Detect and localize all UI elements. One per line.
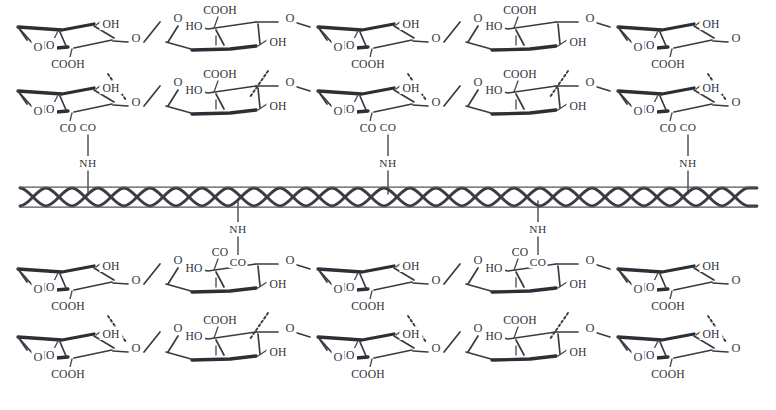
glycosidic-bond-out [413, 41, 428, 42]
glycosidic-bond-out [713, 351, 728, 352]
label-ring-oxygen: O [634, 104, 643, 118]
label-ring-oxygen: O [174, 253, 183, 267]
label-ring-oxygen: O [34, 350, 43, 364]
label-glycosidic-oxygen: O [586, 253, 595, 267]
label-OH: OH [102, 82, 120, 95]
label-ring-oxygen: O [474, 321, 483, 335]
label-OH: OH [569, 100, 587, 113]
label-ring-oxygen: O [334, 350, 343, 364]
label-glycosidic-oxygen: O [732, 273, 741, 287]
label-HO: HO [185, 84, 202, 97]
label-ring-oxygen: O [34, 104, 43, 118]
label-CO: CO [380, 121, 397, 133]
label-glycosidic-oxygen: O [432, 95, 441, 109]
label-glycosidic-oxygen: O [732, 341, 741, 355]
label-COOH: COOH [203, 314, 237, 327]
label-glycosidic-oxygen: O [586, 75, 595, 89]
label-glycosidic-oxygen: O [432, 273, 441, 287]
label-ring-oxygen: O [474, 11, 483, 25]
label-OH: OH [702, 82, 720, 95]
label-NH: NH [529, 223, 546, 235]
label-ring-oxygen: O [334, 40, 343, 54]
label-COOH: COOH [351, 58, 385, 71]
label-CO: CO [530, 256, 547, 268]
glycosidic-bond-out [713, 41, 728, 42]
glycosidic-bond-out [113, 351, 128, 352]
label-COOH: COOH [203, 4, 237, 17]
label-glycosidic-oxygen: O [286, 11, 295, 25]
label-glycosidic-oxygen: O [586, 11, 595, 25]
label-ring-oxygen: O [174, 11, 183, 25]
label-OH: OH [702, 18, 720, 31]
label-glycosidic-oxygen: O [432, 31, 441, 45]
label-NH: NH [229, 223, 246, 235]
label-COOH: COOH [51, 368, 85, 381]
label-OH: OH [702, 260, 720, 273]
label-COOH: COOH [651, 58, 685, 71]
label-glycosidic-oxygen: O [132, 341, 141, 355]
label-COOH: COOH [51, 300, 85, 313]
label-CO-graft: CO [360, 122, 377, 135]
label-glycosidic-oxygen: O [132, 31, 141, 45]
label-ring-oxygen: O [634, 350, 643, 364]
glycosidic-bond-out [113, 283, 128, 284]
label-glycosidic-oxygen: O [432, 341, 441, 355]
label-OH: OH [402, 82, 420, 95]
label-HO: HO [185, 330, 202, 343]
label-ring-oxygen: O [634, 40, 643, 54]
label-glycosidic-oxygen: O [732, 95, 741, 109]
label-NH: NH [379, 157, 396, 169]
label-CO-graft: CO [212, 246, 229, 259]
label-HO: HO [485, 330, 502, 343]
label-OH: OH [569, 346, 587, 359]
label-ring-oxygen: O [334, 104, 343, 118]
label-ring-oxygen: O [34, 282, 43, 296]
label-glycosidic-oxygen: O [286, 253, 295, 267]
label-glycosidic-oxygen: O [732, 31, 741, 45]
label-OH: OH [702, 328, 720, 341]
label-COOH: COOH [503, 314, 537, 327]
label-OH: OH [102, 260, 120, 273]
glycosidic-bond-out [713, 105, 728, 106]
label-OH: OH [269, 100, 287, 113]
label-OH: OH [569, 36, 587, 49]
glycosidic-bond-out [113, 105, 128, 106]
label-HO: HO [185, 20, 202, 33]
label-ring-oxygen: O [634, 282, 643, 296]
label-CO-graft: CO [512, 246, 529, 259]
glycosidic-bond-out [713, 283, 728, 284]
label-HO: HO [485, 262, 502, 275]
label-COOH: COOH [651, 368, 685, 381]
label-ring-oxygen: O [474, 75, 483, 89]
label-ring-oxygen: O [174, 321, 183, 335]
label-OH: OH [102, 18, 120, 31]
label-COOH: COOH [351, 368, 385, 381]
glycosidic-bond-out [413, 351, 428, 352]
label-CO-graft: CO [660, 122, 677, 135]
label-HO: HO [185, 262, 202, 275]
label-COOH: COOH [51, 58, 85, 71]
label-COOH: COOH [203, 68, 237, 81]
label-glycosidic-oxygen: O [286, 321, 295, 335]
label-glycosidic-oxygen: O [132, 95, 141, 109]
label-glycosidic-oxygen: O [132, 273, 141, 287]
label-HO: HO [485, 84, 502, 97]
label-CO-graft: CO [60, 122, 77, 135]
label-CO: CO [680, 121, 697, 133]
label-NH: NH [79, 157, 96, 169]
glycosidic-bond-out [413, 105, 428, 106]
label-glycosidic-oxygen: O [286, 75, 295, 89]
glycosidic-bond-out [113, 41, 128, 42]
label-CO: CO [80, 121, 97, 133]
label-HO: HO [485, 20, 502, 33]
label-OH: OH [269, 346, 287, 359]
chemical-structure-diagram: CONHCONHCONHNHCONHCO HOOOHCOOHOOHOCOOHOH… [0, 0, 776, 410]
label-NH: NH [679, 157, 696, 169]
label-OH: OH [569, 278, 587, 291]
structure-svg: CONHCONHCONHNHCONHCO HOOOHCOOHOOHOCOOHOH… [0, 0, 776, 410]
label-glycosidic-oxygen: O [586, 321, 595, 335]
glycosidic-bond-out [413, 283, 428, 284]
label-CO: CO [230, 256, 247, 268]
label-OH: OH [402, 18, 420, 31]
label-OH: OH [402, 328, 420, 341]
